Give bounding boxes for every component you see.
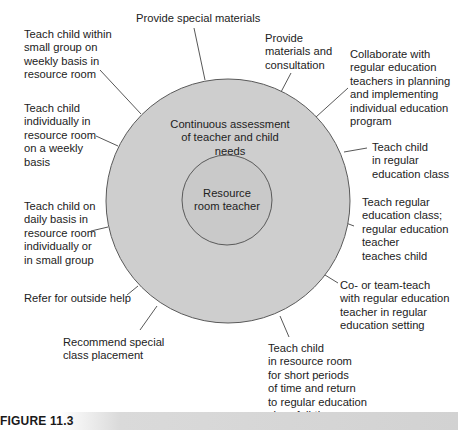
spoke-individually-weekly: Teach child individually in resource roo… [24,102,96,169]
spoke-teach-regular-class: Teach regular education class; regular e… [362,196,448,263]
figure-caption: FIGURE 11.3 [0,412,74,430]
connector-short-periods [280,316,289,337]
spoke-provide-special-materials: Provide special materials [136,12,260,25]
spoke-outside-help: Refer for outside help [24,292,131,305]
connector-individually-weekly [96,136,118,146]
spoke-small-group-weekly: Teach child within small group on weekly… [24,28,112,82]
spoke-daily-basis: Teach child on daily basis in resource r… [24,200,96,267]
connector-teach-in-regular-class [344,148,367,152]
spoke-provide-materials-consultation: Provide materials and consultation [265,32,332,72]
spoke-collaborate: Collaborate with regular education teach… [350,48,450,128]
inner-circle-label: Resource room teacher [186,187,268,214]
connector-collaborate [316,88,348,117]
spoke-short-periods: Teach child in resource room for short p… [268,342,367,422]
connector-co-teach [325,275,338,283]
spoke-special-class: Recommend special class placement [63,336,164,363]
outer-circle-label: Continuous assessment of teacher and chi… [166,118,294,158]
spoke-teach-in-regular-class: Teach child in regular education class [372,141,449,181]
connector-special-class [140,306,157,330]
connector-provide-materials-consultation [281,73,291,92]
spoke-co-teach: Co- or team-teach with regular education… [340,279,449,333]
connector-provide-special-materials [194,28,205,80]
